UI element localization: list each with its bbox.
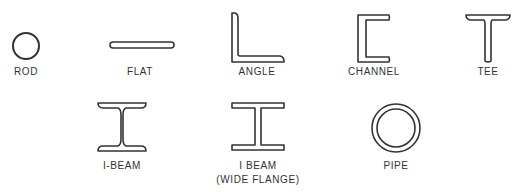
- angle-label: ANGLE: [232, 66, 282, 77]
- pipe-label: PIPE: [376, 160, 416, 171]
- ibeam-shape: [96, 101, 148, 153]
- wide-flange-label-line2: (WIDE FLANGE): [208, 174, 308, 185]
- tee-shape: [464, 14, 512, 64]
- channel-shape: [356, 14, 392, 64]
- angle-shape: [230, 12, 286, 64]
- rod-shape: [10, 30, 42, 62]
- tee-label: TEE: [468, 66, 508, 77]
- wide-flange-shape: [230, 102, 286, 152]
- wide-flange-label-line1: I BEAM: [218, 160, 298, 171]
- pipe-shape: [370, 102, 422, 154]
- rod-label: ROD: [6, 66, 46, 77]
- flat-shape: [108, 40, 176, 50]
- ibeam-label: I-BEAM: [94, 160, 150, 171]
- channel-label: CHANNEL: [342, 66, 406, 77]
- flat-label: FLAT: [120, 66, 160, 77]
